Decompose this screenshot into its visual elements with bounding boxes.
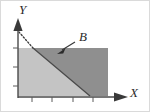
figure-container: Y X B	[0, 0, 150, 112]
coordinate-plane-figure: Y X B	[0, 0, 150, 112]
x-axis-label: X	[129, 85, 139, 100]
region-b-label: B	[79, 29, 87, 44]
